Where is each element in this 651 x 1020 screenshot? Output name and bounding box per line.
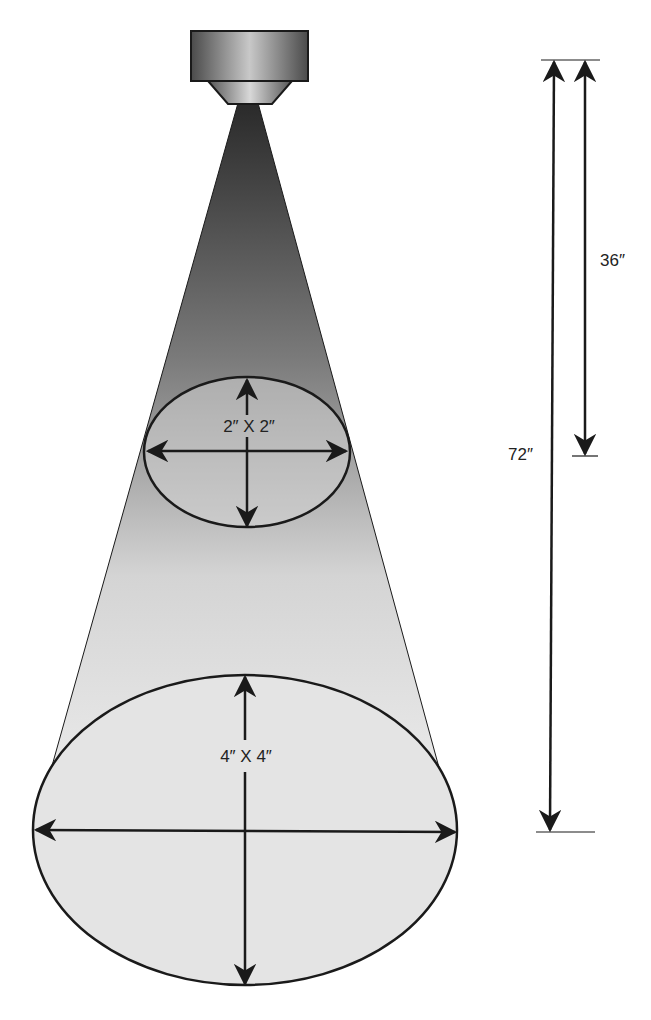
- dimension-lines: 36″ 72″: [508, 60, 625, 832]
- large-spot-label: 4″ X 4″: [220, 747, 272, 766]
- light-fixture: [191, 31, 308, 104]
- dimension-label-36: 36″: [600, 251, 625, 270]
- dimension-arrow-72: [550, 62, 554, 830]
- dimension-label-72: 72″: [508, 445, 533, 464]
- beam-diagram: 2″ X 2″ 4″ X 4″ 36″ 72″: [0, 0, 651, 1020]
- beam-spot-small: 2″ X 2″: [144, 377, 350, 527]
- beam-spot-large: 4″ X 4″: [33, 675, 457, 985]
- small-spot-label: 2″ X 2″: [223, 417, 275, 436]
